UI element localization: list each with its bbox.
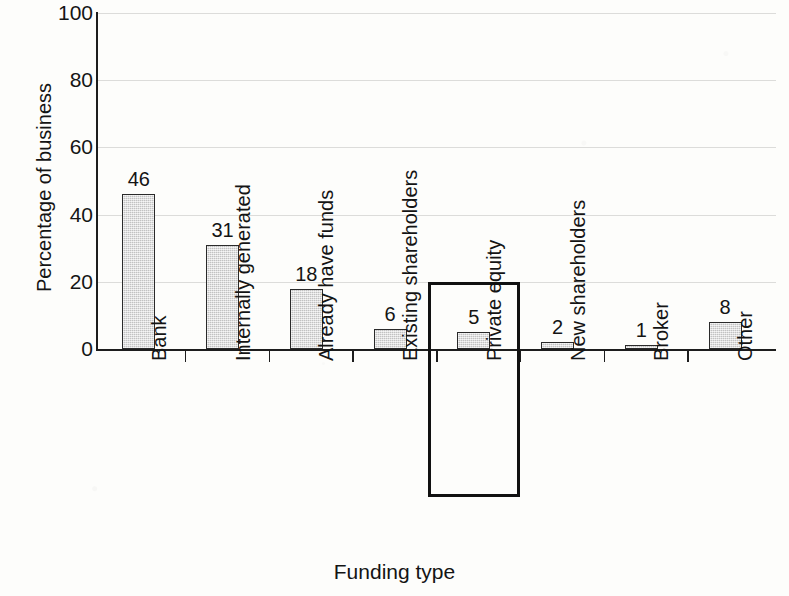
y-axis-tick-label: 20	[70, 271, 93, 292]
category-label: Bank	[148, 315, 171, 361]
y-axis-title: Percentage of business	[33, 48, 56, 328]
gridline	[96, 80, 776, 81]
y-axis-line	[96, 12, 98, 350]
gridline	[96, 215, 776, 216]
x-axis-tick	[185, 351, 187, 362]
x-axis-tick	[687, 351, 689, 362]
y-axis-tick-label: 0	[81, 338, 93, 359]
category-label: Already have funds	[315, 190, 338, 361]
y-axis-tick-label: 80	[70, 69, 93, 90]
category-label: Internally generated	[232, 184, 255, 361]
x-axis-tick	[269, 351, 271, 362]
bar-chart-figure: Percentage of business 020406080100 4631…	[0, 0, 789, 596]
x-axis-tick	[604, 351, 606, 362]
y-axis-tick-label: 60	[70, 136, 93, 157]
x-axis-title: Funding type	[0, 560, 789, 584]
gridline	[96, 13, 776, 14]
bar-value-label: 46	[99, 168, 179, 191]
private-equity-highlight-box	[428, 282, 520, 497]
category-label: Existing shareholders	[399, 170, 422, 361]
category-label: New shareholders	[567, 200, 590, 361]
gridline	[96, 147, 776, 148]
paper-scan-texture	[0, 0, 789, 596]
y-axis-tick-label: 100	[58, 2, 93, 23]
x-axis-tick	[352, 351, 354, 362]
y-axis-tick-label: 40	[70, 204, 93, 225]
category-label: Other	[734, 311, 757, 361]
category-label: Broker	[650, 302, 673, 361]
x-axis-tick	[520, 351, 522, 362]
